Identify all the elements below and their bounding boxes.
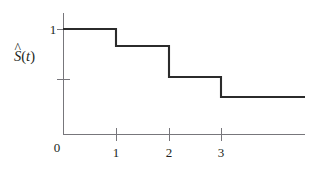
x-tick-label-3: 3 xyxy=(218,145,225,160)
y-axis-title: ^ S (t) xyxy=(14,49,35,64)
x-tick-label-1: 1 xyxy=(113,145,120,160)
survival-function-figure: 1 0 1 2 3 ^ S (t) xyxy=(0,0,329,172)
survival-step-curve xyxy=(63,29,305,97)
y-axis-title-paren-close: ) xyxy=(30,48,35,64)
x-tick-label-0: 0 xyxy=(54,140,61,155)
y-tick-label-1: 1 xyxy=(50,22,57,37)
y-axis-title-symbol: ^ S xyxy=(14,49,21,64)
plot-canvas: 1 0 1 2 3 xyxy=(0,0,329,172)
x-tick-label-2: 2 xyxy=(166,145,173,160)
circumflex-icon: ^ xyxy=(14,42,20,56)
